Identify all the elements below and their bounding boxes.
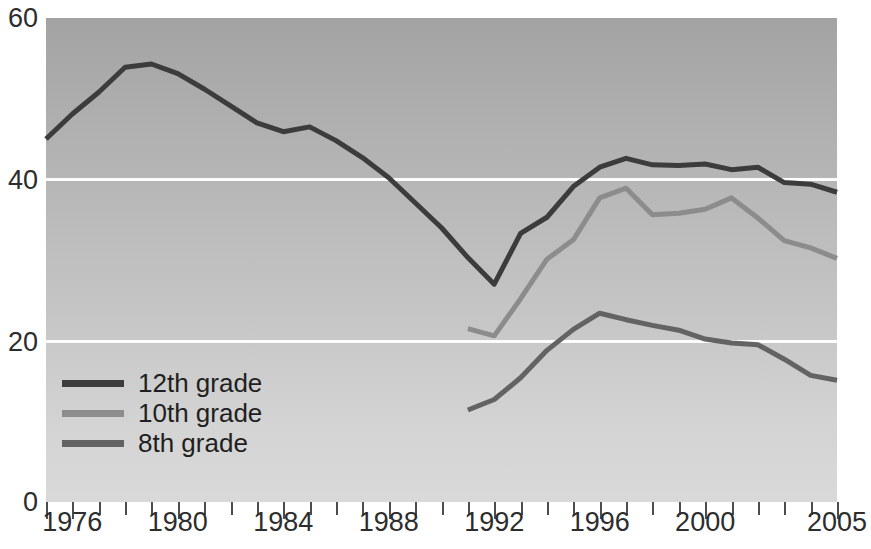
series-line-8th-grade [468,313,837,410]
x-tick-label-1992: 1992 [464,509,524,536]
legend-item-8th-grade: 8th grade [62,428,292,458]
legend-label-12th-grade: 12th grade [138,370,262,396]
x-tick-label-2000: 2000 [675,509,735,536]
x-tick-label-1996: 1996 [570,509,630,536]
x-tick-label-2005: 2005 [807,509,867,536]
line-chart: 60 40 20 0 12th grade 10th grade 8th gra… [0,0,871,549]
x-tick-label-1980: 1980 [148,509,208,536]
x-tick-label-1988: 1988 [359,509,419,536]
series-line-10th-grade [468,188,837,336]
legend-swatch-8th-grade [62,440,124,447]
legend: 12th grade 10th grade 8th grade [62,368,292,458]
x-tick-label-1976: 1976 [42,509,102,536]
series-line-12th-grade [46,64,837,284]
legend-swatch-12th-grade [62,380,124,387]
series-lines [0,0,871,549]
legend-item-10th-grade: 10th grade [62,398,292,428]
x-tick-label-1984: 1984 [253,509,313,536]
legend-label-10th-grade: 10th grade [138,400,262,426]
legend-swatch-10th-grade [62,410,124,417]
legend-item-12th-grade: 12th grade [62,368,292,398]
legend-label-8th-grade: 8th grade [138,430,248,456]
